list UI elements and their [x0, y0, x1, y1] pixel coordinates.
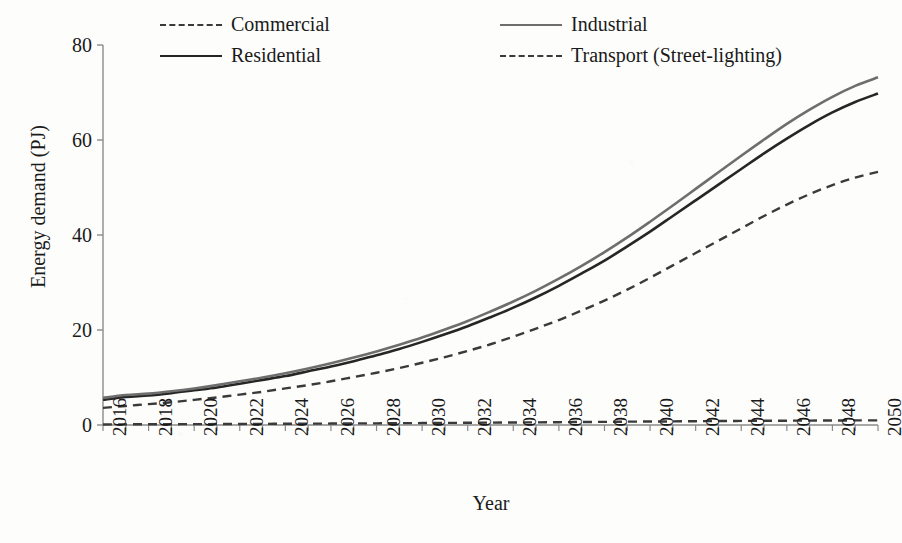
x-tick-label-2050: 2050: [885, 398, 902, 436]
x-axis-tick-labels: 2016201820202022202420262028203020322034…: [0, 0, 902, 543]
x-tick-label-2028: 2028: [384, 398, 403, 436]
x-tick-label-2044: 2044: [748, 398, 767, 436]
chart-figure: Commercial Industrial Residential Transp…: [0, 0, 902, 543]
x-tick-label-2016: 2016: [110, 398, 129, 436]
x-tick-label-2020: 2020: [201, 398, 220, 436]
x-tick-label-2018: 2018: [156, 398, 175, 436]
x-tick-label-2030: 2030: [429, 398, 448, 436]
x-axis-title: Year: [0, 492, 902, 515]
x-tick-label-2046: 2046: [794, 398, 813, 436]
x-tick-label-2042: 2042: [703, 398, 722, 436]
x-tick-label-2034: 2034: [520, 398, 539, 436]
x-tick-label-2024: 2024: [292, 398, 311, 436]
x-tick-label-2040: 2040: [657, 398, 676, 436]
x-tick-label-2036: 2036: [566, 398, 585, 436]
x-tick-label-2026: 2026: [338, 398, 357, 436]
x-tick-label-2048: 2048: [839, 398, 858, 436]
x-tick-label-2032: 2032: [475, 398, 494, 436]
x-tick-label-2038: 2038: [611, 398, 630, 436]
x-tick-label-2022: 2022: [247, 398, 266, 436]
